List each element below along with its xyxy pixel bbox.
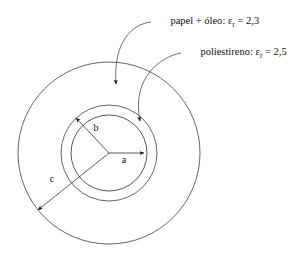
callout-label-poliestireno: poliestireno: εr = 2,5: [182, 46, 300, 60]
callout-label-papel-oleo: papel + óleo: εr = 2,3: [152, 15, 272, 29]
leader-line-poliestireno: [138, 53, 181, 121]
dimension-label-c: c: [50, 173, 55, 184]
callout-equals-papel-oleo: =: [235, 15, 246, 26]
dimension-arrow-c: [38, 153, 109, 210]
callout-material-papel-oleo: papel + óleo: [170, 15, 222, 26]
callout-material-poliestireno: poliestireno: [200, 46, 250, 57]
callout-equals-poliestireno: =: [262, 46, 273, 57]
cross-section-drawing: a b c papel + óleo: εr = 2,3 poliestiren…: [0, 0, 301, 262]
callout-value-poliestireno: 2,5: [274, 46, 287, 57]
diagram-canvas: a b c papel + óleo: εr = 2,3 poliestiren…: [0, 0, 301, 262]
leader-line-papel-oleo: [116, 22, 151, 84]
dimension-label-a: a: [122, 154, 127, 165]
dimension-arrow-b: [76, 118, 109, 153]
dimension-label-b: b: [94, 122, 99, 133]
callout-value-papel-oleo: 2,3: [246, 15, 259, 26]
